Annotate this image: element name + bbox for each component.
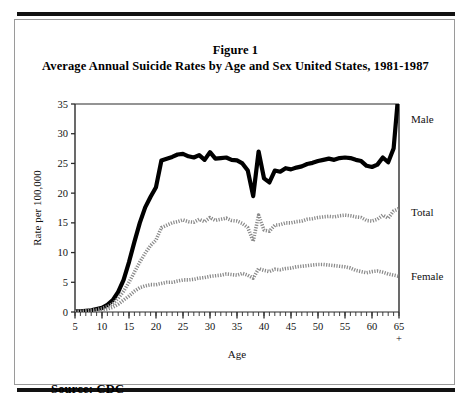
top-rule: [17, 12, 455, 16]
series-line-male: [75, 86, 399, 311]
svg-text:15: 15: [58, 217, 69, 228]
svg-text:25: 25: [178, 321, 189, 332]
svg-text:40: 40: [259, 321, 270, 332]
svg-text:5: 5: [63, 277, 68, 288]
svg-text:5: 5: [72, 321, 77, 332]
svg-text:30: 30: [205, 321, 216, 332]
svg-text:60: 60: [367, 321, 378, 332]
chart-series-labels: MaleTotalFemale: [411, 113, 443, 282]
chart-series: [75, 86, 399, 312]
svg-text:65: 65: [394, 321, 405, 332]
svg-text:35: 35: [58, 99, 69, 110]
chart-canvas: 051015202530355101520253035404550556065+…: [15, 20, 456, 386]
chart-axes: 051015202530355101520253035404550556065+…: [31, 99, 404, 360]
svg-text:Rate per 100,000: Rate per 100,000: [31, 170, 43, 246]
svg-text:0: 0: [63, 307, 68, 318]
svg-text:+: +: [396, 333, 402, 344]
svg-text:50: 50: [313, 321, 324, 332]
svg-text:20: 20: [58, 188, 69, 199]
svg-text:30: 30: [58, 128, 69, 139]
series-line-total: [75, 209, 399, 312]
svg-text:55: 55: [340, 321, 351, 332]
svg-text:20: 20: [151, 321, 162, 332]
series-label-female: Female: [411, 270, 443, 282]
figure-box: Figure 1 Average Annual Suicide Rates by…: [14, 19, 455, 385]
series-label-male: Male: [411, 113, 434, 125]
svg-text:10: 10: [97, 321, 108, 332]
series-label-total: Total: [411, 206, 433, 218]
svg-text:15: 15: [124, 321, 135, 332]
svg-text:10: 10: [58, 247, 69, 258]
source-note: Source: CDC: [51, 382, 124, 397]
svg-text:25: 25: [58, 158, 69, 169]
svg-text:Age: Age: [228, 348, 246, 360]
figure-page: Figure 1 Average Annual Suicide Rates by…: [0, 0, 470, 401]
svg-text:45: 45: [286, 321, 297, 332]
svg-text:35: 35: [232, 321, 243, 332]
